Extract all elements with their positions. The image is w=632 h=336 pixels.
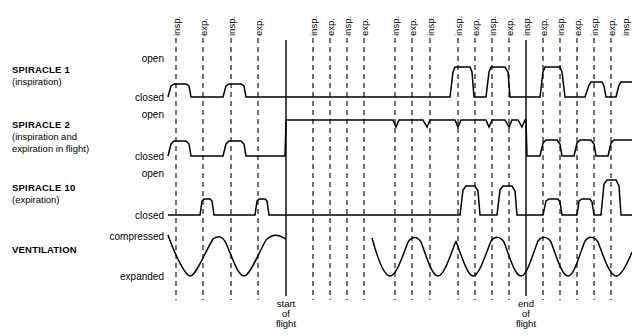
phase-label: insp. xyxy=(453,16,464,36)
trace-ventilation xyxy=(168,235,632,276)
axis-label-closed-spiracle2: closed xyxy=(135,151,164,162)
row-title-spiracle1: SPIRACLE 1 xyxy=(12,64,70,75)
axis-label-open-spiracle2: open xyxy=(142,109,164,120)
row-spiracle2: SPIRACLE 2 (inspiration and expiration i… xyxy=(12,109,632,162)
phase-label: insp. xyxy=(390,16,401,36)
trace-spiracle2 xyxy=(168,120,632,156)
row-title-ventilation: VENTILATION xyxy=(12,244,77,255)
phase-label: insp. xyxy=(487,16,498,36)
axis-label-compressed-ventilation: compressed xyxy=(110,231,164,242)
axis-label-open-spiracle1: open xyxy=(142,53,164,64)
axis-label-closed-spiracle10: closed xyxy=(135,210,164,221)
row-title-spiracle10: SPIRACLE 10 xyxy=(12,182,75,193)
phase-label: exp. xyxy=(407,18,418,36)
row-spiracle10: SPIRACLE 10 (expiration) open closed xyxy=(12,168,632,221)
row-subtitle-spiracle2: (inspiration and xyxy=(12,131,77,142)
axis-label-open-spiracle10: open xyxy=(142,168,164,179)
row-ventilation: VENTILATION compressed expanded xyxy=(12,231,632,282)
trace-spiracle1 xyxy=(168,67,632,97)
phase-label: insp. xyxy=(425,16,436,36)
phase-label: exp. xyxy=(325,18,336,36)
phase-label: insp. xyxy=(521,16,532,36)
phase-label: insp. xyxy=(589,16,600,36)
start-of-flight-line3: flight xyxy=(276,318,296,329)
phase-label: exp. xyxy=(504,18,515,36)
row-subtitle2-spiracle2: expiration in flight) xyxy=(12,143,89,154)
axis-label-expanded-ventilation: expanded xyxy=(120,271,164,282)
phase-label: exp. xyxy=(198,18,209,36)
phase-label: insp. xyxy=(620,16,631,36)
end-of-flight-line3: flight xyxy=(516,318,536,329)
phase-label: exp. xyxy=(253,18,264,36)
trace-spiracle10 xyxy=(168,180,632,215)
spiracle-ventilation-figure: insp. exp. insp. exp. insp. exp. insp. e… xyxy=(0,0,632,336)
phase-label: exp. xyxy=(572,18,583,36)
phase-label: insp. xyxy=(555,16,566,36)
row-subtitle-spiracle1: (inspiration) xyxy=(12,76,62,87)
phase-label: exp. xyxy=(606,18,617,36)
event-markers xyxy=(286,40,526,296)
row-title-spiracle2: SPIRACLE 2 xyxy=(12,119,70,130)
axis-label-closed-spiracle1: closed xyxy=(135,92,164,103)
phase-label: insp. xyxy=(308,16,319,36)
phase-label: exp. xyxy=(538,18,549,36)
cycle-phase-labels: insp. exp. insp. exp. insp. exp. insp. e… xyxy=(171,16,631,36)
figure-svg: insp. exp. insp. exp. insp. exp. insp. e… xyxy=(0,0,632,336)
phase-label: insp. xyxy=(226,16,237,36)
gridlines xyxy=(176,38,611,300)
phase-label: exp. xyxy=(470,18,481,36)
row-subtitle-spiracle10: (expiration) xyxy=(12,194,60,205)
row-spiracle1: SPIRACLE 1 (inspiration) open closed xyxy=(12,53,632,103)
phase-label: insp. xyxy=(171,16,182,36)
phase-label: insp. xyxy=(342,16,353,36)
phase-label: exp. xyxy=(359,18,370,36)
annotations: start of flight end of flight xyxy=(276,298,536,329)
